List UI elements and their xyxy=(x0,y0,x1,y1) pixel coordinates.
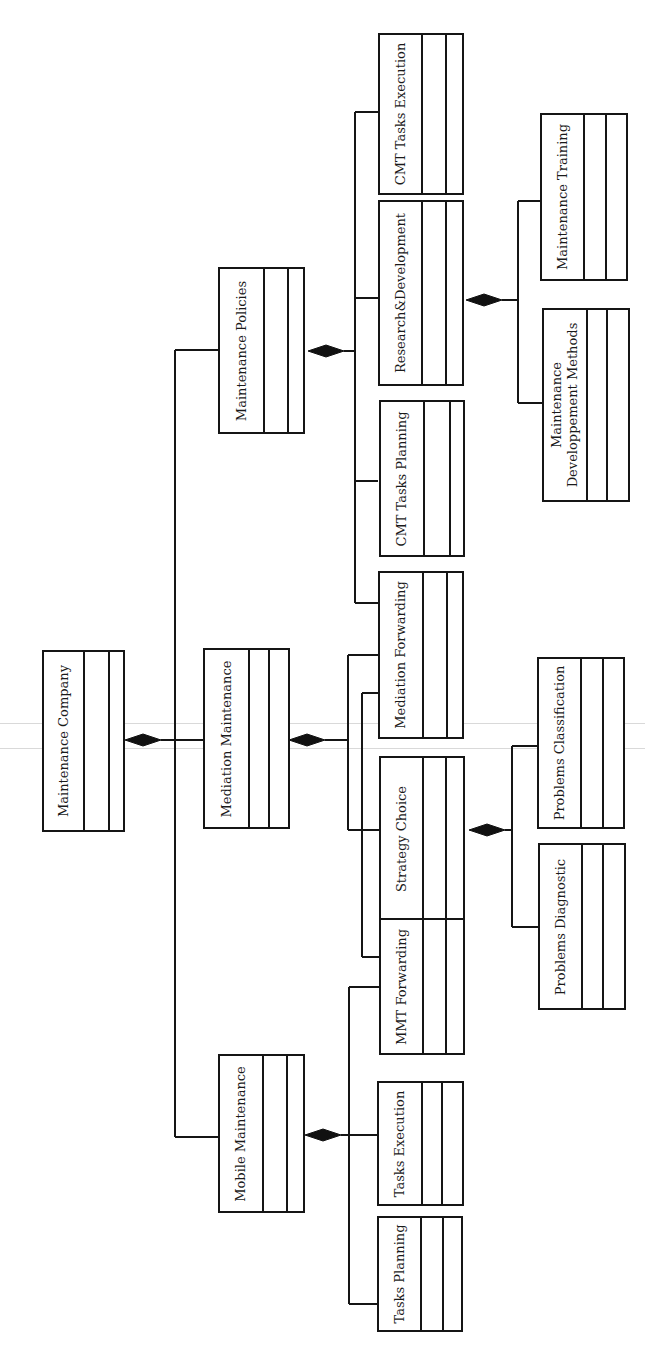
composition-diamond-icon xyxy=(125,734,161,746)
class-operations-compartment xyxy=(110,652,123,830)
class-operations-compartment xyxy=(443,1083,462,1204)
class-attributes-compartment xyxy=(265,269,289,432)
uml-diagram-canvas: Maintenance Company Maintenance Policies… xyxy=(0,0,645,1350)
class-operations-compartment xyxy=(288,1056,303,1211)
class-name: Problems Classification xyxy=(552,666,568,821)
class-name-compartment: Tasks Execution xyxy=(379,1083,423,1204)
class-name: Tasks Execution xyxy=(392,1090,408,1197)
class-attributes-compartment xyxy=(423,35,447,193)
class-operations-compartment xyxy=(447,758,463,919)
class-attributes-compartment xyxy=(264,1056,288,1211)
uml-class-maintenance-developpement-methods[interactable]: Maintenance Developpement Methods xyxy=(542,308,630,502)
class-name: Maintenance Company xyxy=(56,665,72,817)
composition-diamond-icon xyxy=(469,824,505,836)
class-operations-compartment xyxy=(607,115,626,279)
class-operations-compartment xyxy=(604,659,623,827)
class-name: Tasks Planning xyxy=(392,1224,408,1323)
class-attributes-compartment xyxy=(423,1083,443,1204)
class-operations-compartment xyxy=(444,1218,461,1330)
class-name-compartment: Problems Classification xyxy=(539,659,582,827)
class-name-compartment: Maintenance Training xyxy=(542,115,585,279)
class-name: Maintenance Training xyxy=(555,124,571,270)
class-attributes-compartment xyxy=(582,659,604,827)
uml-class-mediation-forwarding[interactable]: Mediation Forwarding xyxy=(378,571,464,739)
class-name-compartment: Maintenance Company xyxy=(44,652,85,830)
class-name: Mediation Forwarding xyxy=(393,581,409,729)
uml-class-maintenance-company[interactable]: Maintenance Company xyxy=(42,650,125,832)
uml-class-mmt-forwarding[interactable]: MMT Forwarding xyxy=(379,918,465,1055)
class-name-compartment: Strategy Choice xyxy=(381,758,424,919)
uml-class-research-development[interactable]: Research&Development xyxy=(378,200,464,386)
class-name-compartment: Mobile Maintenance xyxy=(220,1056,264,1211)
class-name: Research&Development xyxy=(393,213,409,373)
class-name-compartment: CMT Tasks Execution xyxy=(380,35,423,193)
class-name-compartment: Maintenance Policies xyxy=(220,269,265,432)
class-attributes-compartment xyxy=(424,920,447,1053)
uml-class-tasks-planning[interactable]: Tasks Planning xyxy=(377,1216,463,1332)
class-operations-compartment xyxy=(447,35,462,193)
class-name: CMT Tasks Execution xyxy=(393,43,409,186)
class-attributes-compartment xyxy=(425,402,451,555)
uml-class-cmt-tasks-planning[interactable]: CMT Tasks Planning xyxy=(379,400,465,557)
class-name: Mobile Maintenance xyxy=(233,1066,249,1202)
uml-class-maintenance-training[interactable]: Maintenance Training xyxy=(540,113,628,281)
composition-diamond-icon xyxy=(305,1129,341,1141)
class-name: Maintenance Developpement Methods xyxy=(549,323,581,488)
class-operations-compartment xyxy=(447,202,462,384)
class-name: Maintenance Policies xyxy=(234,280,250,420)
composition-diamond-icon xyxy=(308,345,344,357)
class-name: CMT Tasks Planning xyxy=(394,411,410,546)
class-attributes-compartment xyxy=(422,1218,444,1330)
class-attributes-compartment xyxy=(585,115,607,279)
class-name-compartment: Mediation Maintenance xyxy=(205,650,250,827)
class-operations-compartment xyxy=(270,650,288,827)
class-operations-compartment xyxy=(604,845,624,1008)
composition-diamond-icon xyxy=(289,734,325,746)
class-name-compartment: Maintenance Developpement Methods xyxy=(544,310,588,500)
class-name: Mediation Maintenance xyxy=(219,660,235,817)
uml-class-strategy-choice[interactable]: Strategy Choice xyxy=(379,756,465,921)
class-name-compartment: MMT Forwarding xyxy=(381,920,424,1053)
class-attributes-compartment xyxy=(583,845,604,1008)
uml-class-problems-classification[interactable]: Problems Classification xyxy=(537,657,625,829)
class-operations-compartment xyxy=(448,573,462,737)
uml-class-problems-diagnostic[interactable]: Problems Diagnostic xyxy=(538,843,626,1010)
class-operations-compartment xyxy=(608,310,628,500)
class-name-compartment: Problems Diagnostic xyxy=(540,845,583,1008)
class-operations-compartment xyxy=(451,402,463,555)
class-attributes-compartment xyxy=(424,758,447,919)
class-attributes-compartment xyxy=(588,310,608,500)
composition-diamond-icon xyxy=(466,294,502,306)
class-name-compartment: CMT Tasks Planning xyxy=(381,402,425,555)
uml-class-mediation-maintenance[interactable]: Mediation Maintenance xyxy=(203,648,290,829)
class-name-compartment: Tasks Planning xyxy=(379,1218,422,1330)
class-name-compartment: Mediation Forwarding xyxy=(380,573,424,737)
class-name-compartment: Research&Development xyxy=(380,202,423,384)
class-operations-compartment xyxy=(289,269,303,432)
class-attributes-compartment xyxy=(423,202,447,384)
class-name: MMT Forwarding xyxy=(394,928,410,1044)
class-attributes-compartment xyxy=(85,652,110,830)
uml-class-tasks-execution[interactable]: Tasks Execution xyxy=(377,1081,464,1206)
class-name: Strategy Choice xyxy=(394,785,410,891)
uml-class-maintenance-policies[interactable]: Maintenance Policies xyxy=(218,267,305,434)
uml-class-cmt-tasks-execution[interactable]: CMT Tasks Execution xyxy=(378,33,464,195)
class-attributes-compartment xyxy=(250,650,270,827)
class-operations-compartment xyxy=(447,920,463,1053)
class-attributes-compartment xyxy=(424,573,448,737)
uml-class-mobile-maintenance[interactable]: Mobile Maintenance xyxy=(218,1054,305,1213)
class-name: Problems Diagnostic xyxy=(553,858,569,994)
